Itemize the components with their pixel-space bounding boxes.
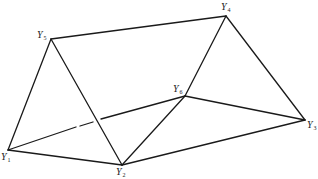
edge-y4-y3: [226, 16, 305, 120]
vertex-label-y2: Y2: [116, 167, 126, 178]
edge-y1-y2: [8, 150, 122, 165]
edge-y5-y4: [51, 16, 226, 39]
edge-y1-y6-segment-b: [80, 122, 93, 126]
edge-y2-y6: [122, 96, 185, 165]
vertex-label-y5: Y5: [37, 30, 47, 41]
edge-y2-y3: [122, 120, 305, 165]
prism-diagram: [0, 0, 318, 179]
edge-y4-y6: [185, 16, 226, 96]
edge-y5-y1: [8, 39, 51, 150]
vertex-label-y3: Y3: [307, 120, 317, 131]
vertex-label-y4: Y4: [221, 2, 231, 13]
vertex-label-y1: Y1: [1, 152, 11, 163]
edge-y6-y3: [185, 96, 305, 120]
edge-y5-y2: [51, 39, 122, 165]
edge-y1-y6-segment-a: [8, 127, 76, 150]
vertex-label-y6: Y6: [173, 84, 183, 95]
edge-y1-y6-segment-c: [101, 96, 185, 119]
